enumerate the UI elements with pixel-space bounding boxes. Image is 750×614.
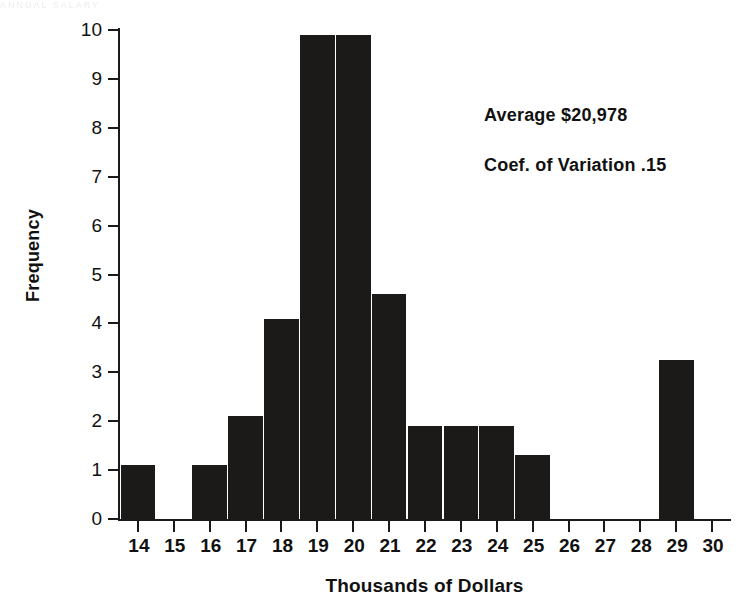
annotation-average: Average $20,978 (484, 105, 627, 126)
x-axis-tick (460, 521, 462, 532)
x-axis-tick-label: 15 (155, 536, 195, 555)
x-axis-tick (711, 521, 713, 532)
x-axis-tick-label: 24 (478, 536, 518, 555)
x-axis-tick (245, 521, 247, 532)
histogram-bar (372, 294, 407, 519)
x-axis-tick-label: 14 (119, 536, 159, 555)
x-axis-tick (173, 521, 175, 532)
x-axis-tick-label: 23 (442, 536, 482, 555)
y-axis-tick (108, 127, 118, 129)
y-axis-tick-label: 4 (74, 313, 102, 332)
x-axis-tick (639, 521, 641, 532)
x-axis-tick (280, 521, 282, 532)
y-axis-tick-label: 7 (74, 167, 102, 186)
x-axis-tick-label: 16 (191, 536, 231, 555)
x-axis-tick-label: 19 (298, 536, 338, 555)
x-axis-tick-label: 22 (406, 536, 446, 555)
x-axis-tick-label: 28 (621, 536, 661, 555)
histogram-bar (659, 360, 694, 519)
histogram-bar (121, 465, 156, 519)
histogram-bar (228, 416, 263, 519)
y-axis-tick (108, 78, 118, 80)
y-axis-line (118, 28, 120, 521)
y-axis-tick-label: 6 (74, 216, 102, 235)
histogram-bar (479, 426, 514, 519)
annotation-coefficient-of-variation: Coef. of Variation .15 (484, 155, 666, 176)
x-axis-tick (388, 521, 390, 532)
y-axis-title: Frequency (23, 186, 44, 326)
y-axis-tick-label: 3 (74, 362, 102, 381)
y-axis-tick (108, 420, 118, 422)
y-axis-tick-label: 9 (74, 69, 102, 88)
y-axis-tick (108, 371, 118, 373)
histogram-bar (192, 465, 227, 519)
y-axis-tick-label: 1 (74, 460, 102, 479)
x-axis-tick-label: 26 (550, 536, 590, 555)
y-axis-tick-label: 10 (74, 20, 102, 39)
y-axis-tick-label: 0 (74, 509, 102, 528)
x-axis-tick (603, 521, 605, 532)
x-axis-tick (568, 521, 570, 532)
histogram-bar (336, 35, 371, 519)
x-axis-tick-label: 17 (227, 536, 267, 555)
y-axis-tick-label: 5 (74, 265, 102, 284)
y-axis-tick (108, 322, 118, 324)
y-axis-tick (108, 176, 118, 178)
histogram-bar (444, 426, 479, 519)
x-axis-tick (424, 521, 426, 532)
y-axis-tick (108, 29, 118, 31)
x-axis-tick (675, 521, 677, 532)
y-axis-tick-label: 8 (74, 118, 102, 137)
y-axis-tick (108, 469, 118, 471)
x-axis-tick-label: 29 (657, 536, 697, 555)
chart-plot-area: Frequency Thousands of Dollars 012345678… (0, 0, 750, 614)
y-axis-tick-label: 2 (74, 411, 102, 430)
x-axis-tick-label: 30 (693, 536, 733, 555)
x-axis-tick (137, 521, 139, 532)
x-axis-tick (316, 521, 318, 532)
x-axis-tick-label: 25 (514, 536, 554, 555)
y-axis-tick (108, 274, 118, 276)
y-axis-tick (108, 225, 118, 227)
histogram-bar (300, 35, 335, 519)
x-axis-tick (496, 521, 498, 532)
y-axis-tick (108, 518, 118, 520)
histogram-bar (515, 455, 550, 519)
histogram-page: ANNUAL SALARY Frequency Thousands of Dol… (0, 0, 750, 614)
x-axis-title: Thousands of Dollars (118, 575, 731, 597)
histogram-bar (408, 426, 443, 519)
x-axis-tick-label: 27 (585, 536, 625, 555)
x-axis-tick-label: 20 (334, 536, 374, 555)
x-axis-tick (209, 521, 211, 532)
x-axis-tick-label: 21 (370, 536, 410, 555)
x-axis-tick (352, 521, 354, 532)
histogram-bar (264, 319, 299, 519)
x-axis-tick (532, 521, 534, 532)
x-axis-tick-label: 18 (262, 536, 302, 555)
